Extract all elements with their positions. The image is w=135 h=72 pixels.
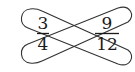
cross-multiplication-diagram: 3 4 9 12 <box>0 0 135 72</box>
right-denominator: 12 <box>96 34 118 54</box>
right-numerator: 9 <box>102 13 113 33</box>
left-denominator: 4 <box>38 34 49 54</box>
left-numerator: 3 <box>38 13 49 33</box>
